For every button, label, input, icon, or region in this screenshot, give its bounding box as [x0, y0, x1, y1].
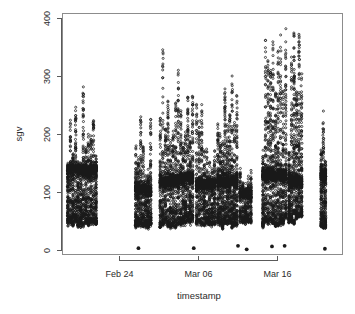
- x-tick-label-feb-24: Feb 24: [105, 269, 133, 279]
- scatter-plot-figure: 400 300 200 100 0 sgv Feb 24 Mar 06 Mar …: [0, 0, 355, 314]
- data-point: [137, 246, 141, 250]
- x-tick-label-mar-06: Mar 06: [184, 269, 212, 279]
- data-point: [245, 247, 249, 251]
- data-point: [192, 246, 196, 250]
- y-axis-title: sgv: [13, 126, 24, 141]
- y-tick-label-400: 400: [42, 11, 52, 26]
- figure-background: [0, 0, 355, 314]
- y-tick-label-200: 200: [42, 127, 52, 142]
- data-point: [283, 244, 287, 248]
- y-tick-label-100: 100: [42, 185, 52, 200]
- data-point: [323, 247, 327, 251]
- plot-svg: 400 300 200 100 0 sgv Feb 24 Mar 06 Mar …: [0, 0, 355, 314]
- data-point: [236, 244, 240, 248]
- x-axis-title: timestamp: [177, 290, 221, 301]
- y-tick-label-300: 300: [42, 69, 52, 84]
- x-tick-label-mar-16: Mar 16: [263, 269, 291, 279]
- y-tick-label-0: 0: [42, 248, 52, 253]
- data-point: [270, 245, 274, 249]
